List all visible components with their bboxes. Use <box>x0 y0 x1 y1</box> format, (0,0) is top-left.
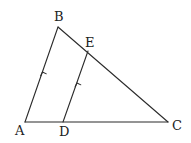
label-b: B <box>54 9 64 24</box>
label-d: D <box>59 124 69 139</box>
parallel-arrow-icon-de <box>74 82 81 87</box>
parallel-arrow-icon-ab <box>40 71 47 76</box>
label-a: A <box>14 123 25 138</box>
label-c: C <box>172 118 182 133</box>
label-e: E <box>85 35 95 50</box>
triangle-diagram: A B C D E <box>0 0 191 143</box>
segment-bc <box>58 27 168 122</box>
